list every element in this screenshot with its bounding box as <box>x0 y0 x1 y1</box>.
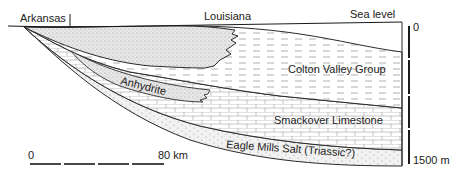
label-sea-level: Sea level <box>350 8 395 20</box>
depth-scale-bottom: 1500 m <box>413 154 450 166</box>
horizontal-scale-start: 0 <box>28 149 34 161</box>
label-colton-valley: Colton Valley Group <box>288 63 386 75</box>
label-louisiana: Louisiana <box>204 10 252 22</box>
depth-scale-top: 0 <box>413 21 419 33</box>
horizontal-scale-end: 80 km <box>158 149 188 161</box>
label-arkansas: Arkansas <box>20 12 66 24</box>
geologic-cross-section: Arkansas Louisiana Sea level Colton Vall… <box>0 0 460 176</box>
label-smackover: Smackover Limestone <box>274 114 383 126</box>
